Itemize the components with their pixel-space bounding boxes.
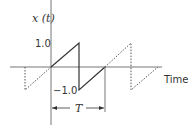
- arrowhead-left-icon: [52, 106, 57, 110]
- period-label: T: [75, 102, 84, 115]
- arrowhead-right-icon: [99, 106, 104, 110]
- tick-label-positive: 1.0: [35, 38, 51, 49]
- y-axis-label: x (t): [32, 12, 55, 25]
- dotted-waveform-left: [25, 67, 51, 90]
- x-axis-label: Time: [163, 74, 188, 85]
- tick-label-negative: −1.0: [53, 85, 77, 96]
- sawtooth-diagram: x (t) 1.0 −1.0 Time T: [0, 0, 193, 128]
